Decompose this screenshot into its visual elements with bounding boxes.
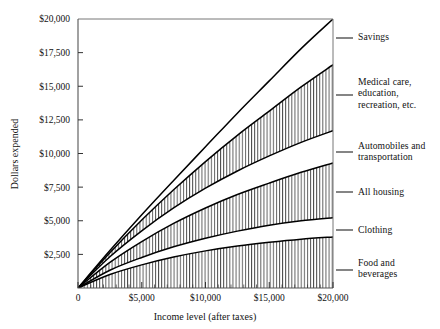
y-tick-label: $7,500 — [44, 183, 70, 193]
series-label-food-beverages: Food andbeverages — [358, 257, 397, 280]
y-axis-title: Dollars expended — [9, 119, 20, 189]
y-tick-label: $2,500 — [44, 250, 70, 260]
y-tick-label: $20,000 — [39, 14, 70, 24]
x-tick-label: $10,000 — [190, 293, 221, 303]
y-tick-label: $15,000 — [39, 82, 70, 92]
series-label-medical-care: Medical care,education,recreation, etc. — [358, 76, 416, 110]
series-label-automobiles: Automobiles andtransportation — [358, 140, 425, 163]
series-label-clothing: Clothing — [358, 224, 392, 235]
series-label-savings: Savings — [358, 31, 389, 42]
x-tick-label: $15,000 — [254, 293, 285, 303]
band-group — [78, 19, 333, 288]
x-tick-label: 0 — [76, 293, 81, 303]
x-tick-label: $20,000 — [318, 293, 349, 303]
y-tick-label: $10,000 — [39, 149, 70, 159]
y-tick-label: $5,000 — [44, 216, 70, 226]
x-tick-label: $5,000 — [129, 293, 155, 303]
y-tick-label: $12,500 — [39, 115, 70, 125]
series-label-all-housing: All housing — [358, 186, 404, 197]
y-tick-label: $17,500 — [39, 48, 70, 58]
stacked-area-chart: $2,500$5,000$7,500$10,000$12,500$15,000$… — [0, 0, 440, 329]
leader-line-group — [336, 38, 353, 270]
y-tick-group: $2,500$5,000$7,500$10,000$12,500$15,000$… — [39, 14, 83, 259]
x-axis-title: Income level (after taxes) — [154, 311, 256, 323]
